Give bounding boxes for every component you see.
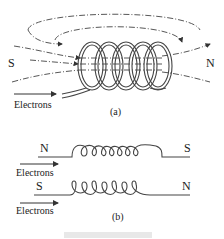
- solenoid-diagram: S N Electrons (a) N S Electrons S N Elec…: [0, 0, 224, 239]
- lead-wire: [62, 88, 90, 98]
- coil-b-bottom: [34, 181, 190, 195]
- lead-wire-end: [150, 88, 166, 90]
- part-b-label: (b): [112, 211, 124, 223]
- pole-label-b-bottom-right: N: [182, 179, 191, 193]
- faded-caption: [64, 232, 152, 238]
- electrons-label-b-top: Electrons: [16, 167, 54, 178]
- pole-label-b-top-left: N: [40, 141, 49, 155]
- electrons-label-a: Electrons: [14, 99, 52, 110]
- pole-label-a-right: N: [206, 56, 215, 70]
- part-a-label: (a): [110, 106, 121, 118]
- field-line-left-low: [12, 70, 80, 82]
- field-line-left-mid: [30, 60, 78, 64]
- part-a-solenoid: [12, 14, 210, 98]
- field-line-left-top: [14, 46, 80, 58]
- field-line-inside: [80, 58, 162, 70]
- field-line-inner: [55, 27, 182, 42]
- field-line-right-top: [162, 44, 210, 56]
- field-line-outer: [28, 14, 200, 30]
- coil-b-top: [38, 145, 190, 157]
- pole-label-a-left: S: [8, 56, 15, 70]
- coil-turns: [78, 42, 172, 90]
- part-b-bottom-coil: [20, 181, 190, 203]
- pole-label-b-bottom-left: S: [36, 179, 43, 193]
- pole-label-b-top-right: S: [184, 141, 191, 155]
- electrons-label-b-bottom: Electrons: [16, 205, 54, 216]
